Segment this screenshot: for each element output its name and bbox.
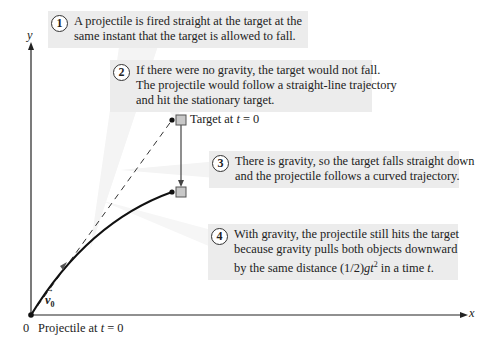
projectile-no-gravity-dot xyxy=(169,117,174,122)
origin-label: 0 xyxy=(23,321,29,336)
target-fallen xyxy=(176,187,186,197)
origin-dot xyxy=(28,312,34,318)
callout-3: 3 There is gravity, so the target falls … xyxy=(209,151,459,188)
callout-2: 2 If there were no gravity, the target w… xyxy=(110,60,372,112)
target-t0-label: Target at t = 0 xyxy=(190,112,259,127)
step-number-1: 1 xyxy=(51,15,68,32)
x-axis-arrow-icon xyxy=(460,312,468,318)
callout-1: 1 A projectile is fired straight at the … xyxy=(48,11,308,48)
y-axis-label: y xyxy=(27,28,33,43)
target-initial xyxy=(176,115,186,125)
step-number-3: 3 xyxy=(212,155,229,172)
y-axis-arrow-icon xyxy=(28,42,34,50)
target-fall-arrow-icon xyxy=(178,180,184,187)
projectile-gravity-dot xyxy=(169,189,174,194)
step-number-4: 4 xyxy=(211,228,228,245)
step-number-2: 2 xyxy=(113,64,130,81)
velocity-label: →v0 xyxy=(45,293,55,309)
callout-4: 4 With gravity, the projectile still hit… xyxy=(208,224,458,280)
projectile-t0-label: Projectile at t = 0 xyxy=(38,321,123,336)
x-axis-label: x xyxy=(469,306,475,321)
